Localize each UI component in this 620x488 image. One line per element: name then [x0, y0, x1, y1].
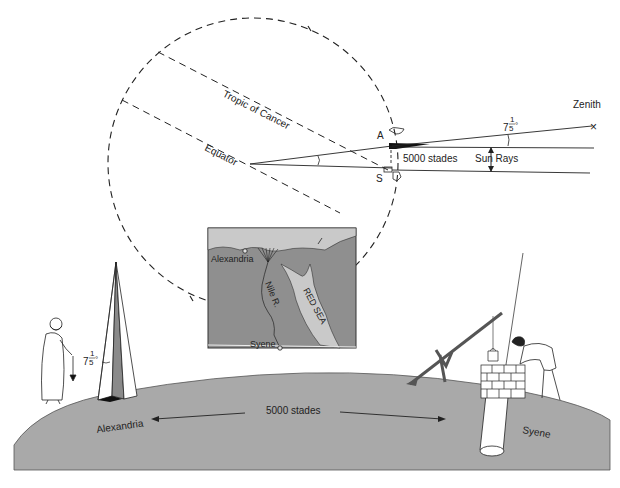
svg-text:°: °: [95, 355, 98, 364]
map-inset: Alexandria Nile R. RED SEA Syene: [208, 228, 356, 350]
syene-marker: [278, 346, 282, 350]
radius-to-s: [250, 164, 392, 168]
map-alexandria-label: Alexandria: [211, 254, 254, 264]
ground-distance-label: 5000 stades: [266, 405, 321, 416]
zenith-angle-label: 7 1 5 °: [503, 115, 518, 133]
zenith-marker: ×: [590, 120, 597, 134]
obelisk-at-a-icon: [389, 127, 404, 134]
svg-text:°: °: [515, 121, 518, 130]
svg-text:5: 5: [89, 358, 94, 367]
zenith-label: Zenith: [573, 99, 601, 110]
well-brick-wall: [481, 365, 525, 398]
circle-tick-top: [308, 26, 311, 31]
point-s-label: S: [376, 173, 383, 184]
arc-distance-label: 5000 stades: [403, 153, 458, 164]
point-a-label: A: [377, 130, 384, 141]
a-to-zenith-line: [392, 126, 592, 146]
equator-label: Equator: [203, 142, 240, 168]
circle-tick-bottom: [190, 296, 193, 301]
sun-ray-upper: [390, 147, 594, 148]
obelisk-alexandria: 7 1 5 °: [83, 262, 137, 402]
bucket-icon: [488, 349, 498, 362]
zenith-angle-arc: [508, 135, 509, 146]
eratosthenes-figure: [42, 318, 77, 404]
sun-rays-label: Sun Rays: [475, 153, 518, 164]
alexandria-marker: [243, 249, 247, 253]
obelisk-angle-label: 7 1 5 °: [83, 349, 98, 367]
radius-to-a: [250, 146, 392, 164]
center-angle-arc: [318, 156, 320, 165]
map-syene-label: Syene: [250, 339, 276, 349]
tropic-of-cancer-label: Tropic of Cancer: [221, 88, 292, 131]
eratosthenes-diagram: Tropic of Cancer Equator A S 5000 stades…: [0, 0, 620, 488]
svg-text:5: 5: [509, 124, 514, 133]
